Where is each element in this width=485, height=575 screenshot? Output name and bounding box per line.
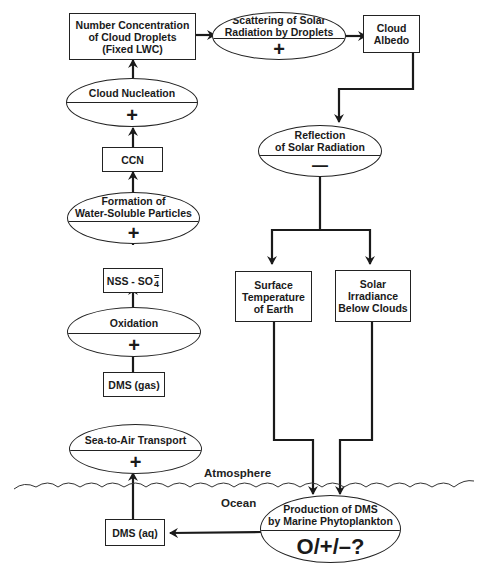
reflection-line2: of Solar Radiation <box>275 141 365 153</box>
oxidation-ellipse: Oxidation + <box>67 307 201 357</box>
production-dms-line1: Production of DMS <box>283 503 378 515</box>
scattering-ellipse: Scattering of Solar Radiation by Droplet… <box>212 12 346 60</box>
surface-temperature-box: Surface Temperature of Earth <box>235 271 312 322</box>
reflection-line1: Reflection <box>295 129 346 141</box>
solar-irradiance-line2: Irradiance <box>348 290 398 302</box>
dms-gas-box: DMS (gas) <box>103 372 165 397</box>
nss-so4-box: NSS - SO = 4 <box>103 268 163 293</box>
scattering-line1: Scattering of Solar <box>232 14 325 26</box>
cloud-albedo-line2: Albedo <box>374 34 410 46</box>
formation-line2: Water-Soluble Particles <box>75 207 192 219</box>
oxidation-title: Oxidation <box>110 317 158 329</box>
number-concentration-box: Number Concentration of Cloud Droplets (… <box>69 13 196 60</box>
production-dms-line2: by Marine Phytoplankton <box>268 515 393 527</box>
cloud-albedo-line1: Cloud <box>377 22 407 34</box>
dms-aq-label: DMS (aq) <box>112 527 158 539</box>
scattering-line2: Radiation by Droplets <box>225 26 334 38</box>
nss-so4-prefix: NSS - SO <box>107 275 153 287</box>
number-concentration-line2: of Cloud Droplets <box>88 31 176 43</box>
solar-irradiance-line3: Below Clouds <box>338 302 407 314</box>
sea-to-air-title: Sea-to-Air Transport <box>85 434 187 446</box>
cloud-nucleation-ellipse: Cloud Nucleation + <box>66 78 198 127</box>
reflection-ellipse: Reflection of Solar Radiation — <box>258 125 382 177</box>
surface-temperature-line2: Temperature <box>242 291 305 303</box>
ccn-label: CCN <box>121 154 144 166</box>
production-dms-ellipse: Production of DMS by Marine Phytoplankto… <box>260 495 401 563</box>
ccn-box: CCN <box>102 147 163 172</box>
sea-to-air-ellipse: Sea-to-Air Transport + <box>69 424 202 474</box>
dms-gas-label: DMS (gas) <box>108 379 159 391</box>
nss-so4-sub: 4 <box>154 281 159 288</box>
cloud-albedo-box: Cloud Albedo <box>363 15 420 53</box>
formation-line1: Formation of <box>101 195 165 207</box>
formation-ellipse: Formation of Water-Soluble Particles + <box>67 192 200 244</box>
sea-surface-wave <box>14 481 474 489</box>
atmosphere-label: Atmosphere <box>204 467 271 479</box>
dms-aq-box: DMS (aq) <box>105 519 165 546</box>
ocean-label: Ocean <box>221 497 256 509</box>
surface-temperature-line3: of Earth <box>254 303 294 315</box>
surface-temperature-line1: Surface <box>254 279 293 291</box>
number-concentration-line1: Number Concentration <box>76 19 190 31</box>
solar-irradiance-line1: Solar <box>360 278 386 290</box>
number-concentration-line3: (Fixed LWC) <box>102 43 163 55</box>
cloud-nucleation-title: Cloud Nucleation <box>89 87 175 99</box>
solar-irradiance-box: Solar Irradiance Below Clouds <box>335 270 411 322</box>
